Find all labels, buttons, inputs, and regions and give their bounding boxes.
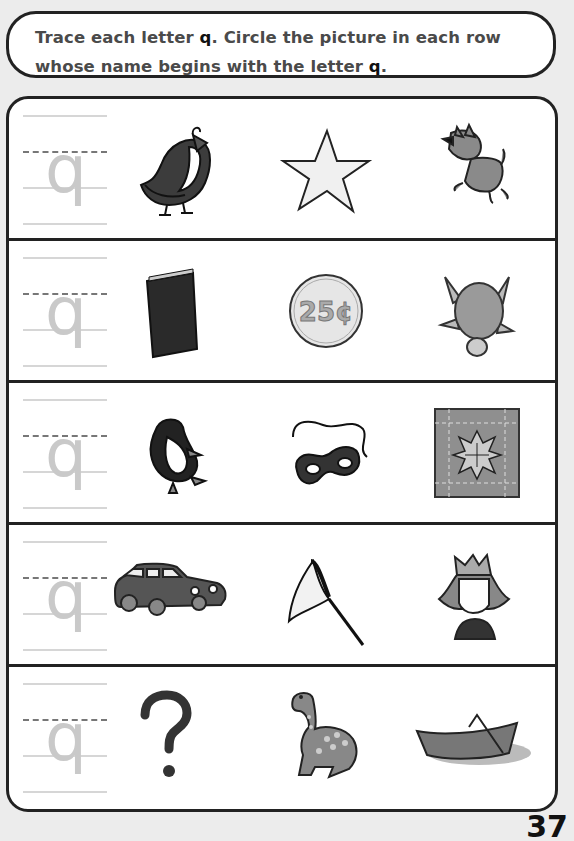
dinosaur-picture[interactable]: [271, 681, 381, 791]
quilt-picture[interactable]: [419, 397, 529, 507]
queen-picture[interactable]: [419, 539, 529, 649]
page-number: 37: [526, 812, 568, 841]
tracing-area[interactable]: q: [23, 667, 107, 809]
book-picture[interactable]: [121, 255, 231, 365]
instructions-line-1: Trace each letter q. Circle the picture …: [35, 23, 553, 52]
trace-letter-q: q: [45, 279, 87, 345]
trace-letter-q: q: [45, 137, 87, 203]
trace-letter-q: q: [45, 705, 87, 771]
tracing-area[interactable]: q: [23, 99, 107, 241]
top-line: [23, 257, 107, 259]
worksheet-row: q: [9, 667, 555, 809]
descender-line: [23, 223, 107, 225]
top-line: [23, 399, 107, 401]
penguin-picture[interactable]: [121, 397, 231, 507]
tracing-area[interactable]: q: [23, 383, 107, 525]
dog-picture[interactable]: [419, 113, 529, 223]
target-letter: q: [369, 57, 381, 76]
car-picture[interactable]: [109, 539, 239, 649]
worksheet: q: [6, 96, 558, 812]
descender-line: [23, 649, 107, 651]
instructions-box: Trace each letter q. Circle the picture …: [6, 11, 556, 78]
turtle-picture[interactable]: [419, 255, 529, 365]
top-line: [23, 541, 107, 543]
tracing-area[interactable]: q: [23, 241, 107, 383]
star-picture[interactable]: [271, 113, 381, 223]
mask-picture[interactable]: [271, 397, 381, 507]
quarter-coin-picture[interactable]: 25¢: [271, 255, 381, 365]
top-line: [23, 115, 107, 117]
descender-line: [23, 365, 107, 367]
trace-letter-q: q: [45, 421, 87, 487]
worksheet-row: q 25¢: [9, 241, 555, 383]
instructions-line-2: whose name begins with the letter q.: [35, 52, 553, 81]
tracing-area[interactable]: q: [23, 525, 107, 667]
quail-picture[interactable]: [121, 113, 231, 223]
worksheet-row: q: [9, 525, 555, 667]
descender-line: [23, 507, 107, 509]
target-letter: q: [200, 28, 212, 47]
question-mark-picture[interactable]: [121, 681, 231, 791]
net-picture[interactable]: [271, 539, 381, 649]
worksheet-row: q: [9, 99, 555, 241]
boat-picture[interactable]: [409, 681, 539, 791]
top-line: [23, 683, 107, 685]
trace-letter-q: q: [45, 563, 87, 629]
svg-text:25¢: 25¢: [299, 297, 353, 327]
worksheet-row: q: [9, 383, 555, 525]
descender-line: [23, 791, 107, 793]
